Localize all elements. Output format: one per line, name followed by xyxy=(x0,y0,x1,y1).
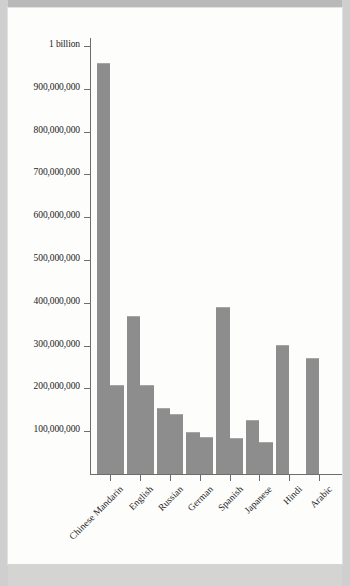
bars-layer xyxy=(8,8,342,564)
bar xyxy=(140,385,153,474)
x-tick-mark xyxy=(230,475,231,481)
bar xyxy=(306,358,319,474)
bar xyxy=(276,345,289,474)
bar xyxy=(170,414,183,474)
bar xyxy=(157,408,170,474)
bar xyxy=(230,438,243,474)
page-background: 1 billion900,000,000800,000,000700,000,0… xyxy=(0,0,350,586)
bar xyxy=(127,316,140,474)
x-tick-mark xyxy=(319,475,320,481)
x-tick-mark xyxy=(289,475,290,481)
page-edge-top xyxy=(8,0,342,8)
bar xyxy=(186,432,199,474)
bar xyxy=(216,307,229,474)
x-tick-mark xyxy=(170,475,171,481)
x-tick-mark xyxy=(259,475,260,481)
bar xyxy=(259,442,272,474)
x-tick-mark xyxy=(200,475,201,481)
scanned-page-sheet: 1 billion900,000,000800,000,000700,000,0… xyxy=(8,8,342,564)
bar-chart: 1 billion900,000,000800,000,000700,000,0… xyxy=(8,8,342,564)
x-tick-mark xyxy=(140,475,141,481)
bar xyxy=(97,63,110,474)
bar xyxy=(110,385,123,474)
bar xyxy=(200,437,213,474)
bar xyxy=(246,420,259,474)
x-tick-mark xyxy=(110,475,111,481)
page-edge-bottom xyxy=(8,564,342,586)
